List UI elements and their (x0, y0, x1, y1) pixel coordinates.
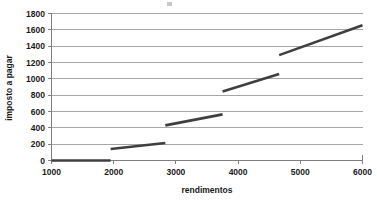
x-tick-label: 2000 (104, 167, 123, 177)
y-tick-label: 1400 (26, 41, 45, 51)
x-tick-labels: 1000 2000 3000 4000 5000 6000 (42, 167, 372, 177)
series-segment-bracket-4 (223, 74, 280, 92)
y-tick-labels: 1800 1600 1400 1200 1000 800 600 400 200… (26, 9, 45, 166)
y-tick-label: 0 (40, 156, 45, 166)
data-series (52, 25, 363, 160)
y-axis-title: imposto a pagar (4, 54, 14, 120)
y-tick-label: 800 (31, 90, 45, 100)
y-tick-label: 1800 (26, 9, 45, 19)
series-segment-bracket-3 (165, 114, 222, 125)
y-tick-label: 200 (31, 139, 45, 149)
axes-lines (52, 14, 363, 161)
y-tickmarks (48, 14, 52, 161)
y-tick-label: 400 (31, 123, 45, 133)
title-artifact (167, 2, 172, 6)
x-axis-title: rendimentos (181, 185, 232, 195)
y-tick-label: 1600 (26, 25, 45, 35)
gridlines (52, 14, 363, 145)
x-tick-label: 1000 (42, 167, 61, 177)
x-tick-label: 3000 (166, 167, 185, 177)
y-tick-label: 1000 (26, 74, 45, 84)
y-tick-label: 600 (31, 107, 45, 117)
x-tick-label: 6000 (353, 167, 372, 177)
x-tick-label: 5000 (291, 167, 310, 177)
y-tick-label: 1200 (26, 58, 45, 68)
chart-container: 1800 1600 1400 1200 1000 800 600 400 200… (0, 0, 377, 201)
x-tick-label: 4000 (229, 167, 248, 177)
income-tax-line-chart: 1800 1600 1400 1200 1000 800 600 400 200… (0, 0, 377, 201)
